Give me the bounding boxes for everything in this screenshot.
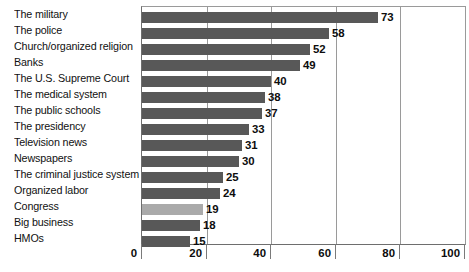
- bar-row: 37: [142, 106, 465, 122]
- category-label-column: The militaryThe policeChurch/organized r…: [0, 0, 141, 244]
- x-tick-mark: [206, 244, 207, 259]
- bar-value-label: 58: [329, 27, 345, 40]
- bar-value-label: 18: [200, 219, 216, 232]
- category-label: Television news: [14, 134, 87, 150]
- bar: [142, 76, 271, 87]
- category-label: The police: [14, 22, 62, 38]
- category-label: Church/organized religion: [14, 38, 133, 54]
- x-tick-mark: [141, 244, 142, 259]
- bar: [142, 172, 223, 183]
- x-axis: 020406080100: [141, 244, 465, 264]
- category-label: HMOs: [14, 230, 44, 246]
- bar: [142, 44, 310, 55]
- bar: [142, 156, 239, 167]
- bar-value-label: 52: [310, 43, 326, 56]
- bar-row: 58: [142, 26, 465, 42]
- bar: [142, 140, 242, 151]
- category-label: The presidency: [14, 118, 85, 134]
- category-label: Banks: [14, 54, 43, 70]
- bar-value-label: 38: [265, 91, 281, 104]
- bar-row: 33: [142, 122, 465, 138]
- x-tick-mark: [399, 244, 400, 259]
- bar-value-label: 40: [271, 75, 287, 88]
- bar-value-label: 19: [203, 203, 219, 216]
- bar-row: 24: [142, 186, 465, 202]
- bar: [142, 188, 220, 199]
- category-label: Big business: [14, 214, 73, 230]
- x-tick-label: 80: [343, 247, 395, 259]
- category-label: Organized labor: [14, 182, 88, 198]
- category-label: The criminal justice system: [14, 166, 139, 182]
- bar-value-label: 30: [239, 155, 255, 168]
- bar-row: 49: [142, 58, 465, 74]
- bar: [142, 12, 378, 23]
- x-tick-label: 100: [408, 247, 460, 259]
- bar-value-label: 37: [262, 107, 278, 120]
- bar: [142, 60, 300, 71]
- bar-row: 18: [142, 218, 465, 234]
- x-tick-mark: [464, 244, 465, 259]
- bar: [142, 204, 203, 215]
- bar-value-label: 24: [220, 187, 236, 200]
- bar-row: 30: [142, 154, 465, 170]
- bar: [142, 28, 329, 39]
- bar-value-label: 73: [378, 11, 394, 24]
- x-tick-label: 60: [279, 247, 331, 259]
- bar-chart: The militaryThe policeChurch/organized r…: [0, 0, 469, 272]
- bar: [142, 108, 262, 119]
- bar-row: 73: [142, 10, 465, 26]
- bar-row: 38: [142, 90, 465, 106]
- bar: [142, 92, 265, 103]
- bar-row: 31: [142, 138, 465, 154]
- bar-row: 25: [142, 170, 465, 186]
- bar-row: 19: [142, 202, 465, 218]
- category-label: Congress: [14, 198, 59, 214]
- bar-row: 52: [142, 42, 465, 58]
- plot-area: 735852494038373331302524191815: [141, 6, 466, 245]
- x-tick-label: 20: [150, 247, 202, 259]
- bar-value-label: 25: [223, 171, 239, 184]
- bar: [142, 124, 249, 135]
- category-label: The military: [14, 6, 68, 22]
- x-tick-label: 40: [214, 247, 266, 259]
- bar-value-label: 31: [242, 139, 258, 152]
- x-tick-mark: [270, 244, 271, 259]
- bar-row: 40: [142, 74, 465, 90]
- bar-value-label: 33: [249, 123, 265, 136]
- bar-value-label: 49: [300, 59, 316, 72]
- x-tick-mark: [335, 244, 336, 259]
- x-tick-label: 0: [85, 247, 137, 259]
- category-label: Newspapers: [14, 150, 72, 166]
- bar: [142, 220, 200, 231]
- category-label: The public schools: [14, 102, 100, 118]
- category-label: The U.S. Supreme Court: [14, 70, 129, 86]
- category-label: The medical system: [14, 86, 107, 102]
